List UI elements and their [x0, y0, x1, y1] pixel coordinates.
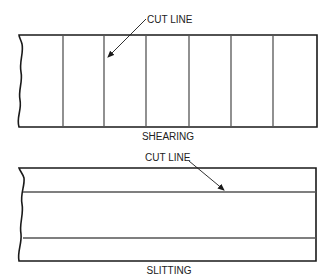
shearing-panel: CUT LINE SHEARING — [18, 14, 317, 142]
slitting-sheet-outline — [19, 168, 316, 261]
slitting-cut-line-label: CUT LINE — [145, 152, 191, 163]
slitting-cut-lines — [23, 192, 316, 238]
shearing-cut-lines — [63, 35, 273, 127]
shearing-cut-line-arrow — [108, 19, 146, 57]
slitting-panel: CUT LINE SLITTING — [19, 152, 316, 276]
cutting-diagram: CUT LINE SHEARING CUT LINE SLITTING — [0, 0, 329, 278]
slitting-cut-line-arrow — [189, 161, 224, 190]
shearing-cut-line-label: CUT LINE — [147, 14, 193, 25]
shearing-caption: SHEARING — [142, 131, 194, 142]
slitting-caption: SLITTING — [146, 265, 191, 276]
